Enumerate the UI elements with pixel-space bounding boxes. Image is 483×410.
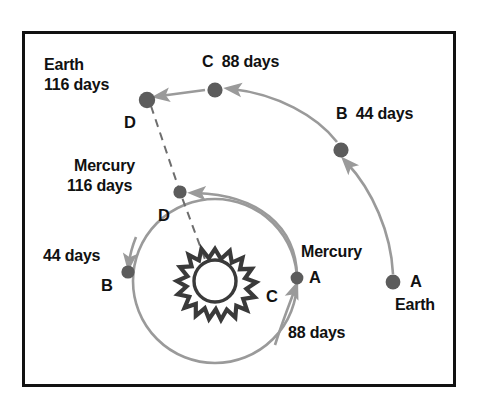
mercury-b-point-label: B bbox=[101, 276, 113, 294]
earth-a-point-label: A bbox=[410, 272, 422, 290]
mercury-dot-b bbox=[121, 265, 134, 278]
mercury-days-label: 88 days bbox=[288, 324, 345, 342]
mercury-b-days-label: 44 days bbox=[43, 247, 100, 265]
earth-b-label: B 44 days bbox=[336, 105, 413, 123]
earth-d-days-label: 116 days bbox=[44, 76, 109, 94]
mercury-a-point-label: A bbox=[309, 268, 321, 286]
earth-dot-c bbox=[207, 82, 222, 97]
earth-c-label: C 88 days bbox=[202, 53, 279, 71]
diagram-canvas: Earth 116 days D C 88 days B 44 days A E… bbox=[0, 0, 483, 410]
mercury-d-point-label: D bbox=[158, 206, 170, 224]
earth-dot-a bbox=[386, 275, 401, 290]
mercury-dot-a bbox=[291, 272, 304, 285]
earth-dot-d bbox=[139, 92, 155, 108]
earth-d-point-label: D bbox=[124, 113, 136, 131]
mercury-c-point-label: C bbox=[266, 287, 278, 305]
earth-a-name-label: Earth bbox=[395, 296, 435, 314]
mercury-dot-d bbox=[173, 185, 186, 198]
mercury-d-days-label: 116 days bbox=[67, 177, 132, 195]
earth-d-name-label: Earth bbox=[44, 56, 84, 74]
mercury-a-name-label: Mercury bbox=[301, 243, 362, 261]
mercury-d-name-label: Mercury bbox=[74, 157, 135, 175]
earth-dot-b bbox=[333, 142, 348, 157]
